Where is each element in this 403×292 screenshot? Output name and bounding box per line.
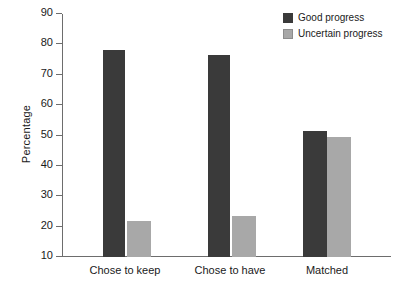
- bar: [127, 221, 151, 257]
- bar-chart: Percentage 102030405060708090 Chose to k…: [0, 0, 403, 292]
- legend-swatch-icon: [283, 13, 293, 23]
- chart-legend: Good progressUncertain progress: [283, 12, 382, 44]
- legend-label: Uncertain progress: [298, 28, 382, 39]
- y-axis-tick-label: 10: [41, 249, 53, 262]
- plot-area: 102030405060708090 Chose to keepChose to…: [62, 14, 391, 257]
- y-axis-tick: 70: [56, 74, 62, 75]
- y-axis-tick: 10: [56, 256, 62, 257]
- y-axis-tick-label: 20: [41, 219, 53, 232]
- y-axis-tick: 80: [56, 43, 62, 44]
- bar: [232, 216, 256, 257]
- bar: [103, 50, 125, 257]
- y-axis-tick-label: 70: [41, 67, 53, 80]
- y-axis-tick: 30: [56, 195, 62, 196]
- y-axis-title: Percentage: [20, 64, 32, 204]
- y-axis-tick: 50: [56, 135, 62, 136]
- y-axis-line: [62, 14, 63, 257]
- y-axis-tick: 90: [56, 13, 62, 14]
- y-axis-tick: 40: [56, 165, 62, 166]
- y-axis-tick-label: 30: [41, 188, 53, 201]
- y-axis-tick: 20: [56, 226, 62, 227]
- bar: [327, 137, 351, 257]
- y-axis-tick-label: 40: [41, 158, 53, 171]
- y-axis-tick: 60: [56, 104, 62, 105]
- bar: [303, 131, 327, 257]
- x-axis-category-label: Matched: [267, 263, 387, 277]
- y-axis-tick-label: 90: [41, 6, 53, 19]
- x-axis-category-label: Chose to keep: [65, 263, 185, 277]
- y-axis-tick-label: 60: [41, 97, 53, 110]
- bar: [208, 55, 230, 257]
- legend-item: Uncertain progress: [283, 28, 382, 39]
- legend-item: Good progress: [283, 12, 382, 23]
- y-axis-tick-label: 80: [41, 36, 53, 49]
- y-axis-tick-label: 50: [41, 128, 53, 141]
- legend-label: Good progress: [298, 12, 364, 23]
- legend-swatch-icon: [283, 29, 293, 39]
